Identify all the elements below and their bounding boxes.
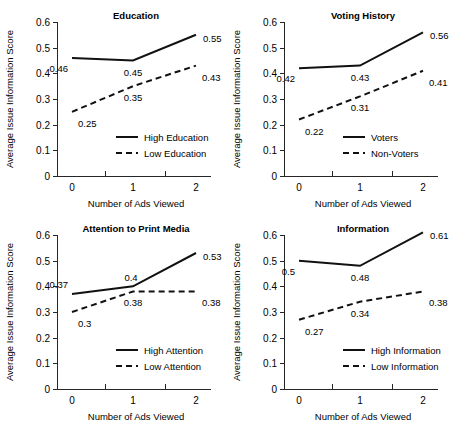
y-axis-tick-label: 0.1: [36, 145, 50, 156]
panel-title: Education: [113, 10, 159, 21]
x-axis-tick-label: 2: [193, 182, 199, 193]
series-line-1: [299, 32, 423, 68]
chart-panel-3: Attention to Print Media00.10.20.30.40.5…: [0, 213, 226, 426]
x-axis-tick-label: 1: [357, 182, 363, 193]
legend-label-1: High Education: [144, 132, 208, 143]
data-point-label: 0.5: [282, 266, 295, 277]
y-axis-tick-label: 0.1: [36, 358, 50, 369]
x-axis-tick-label: 2: [420, 395, 426, 406]
data-point-label: 0.27: [305, 326, 324, 337]
y-axis-tick-label: 0.4: [36, 68, 50, 79]
legend-label-2: Low Attention: [144, 361, 201, 372]
series-line-1: [299, 232, 423, 265]
x-axis-label: Number of Ads Viewed: [315, 411, 411, 422]
y-axis-tick-label: 0: [271, 171, 277, 182]
x-axis-tick-label: 0: [69, 182, 75, 193]
data-point-label: 0.31: [351, 102, 370, 113]
y-axis-tick-label: 0.6: [36, 17, 50, 28]
y-axis-tick-label: 0.2: [263, 333, 277, 344]
y-axis-label: Average Issue Information Score: [231, 243, 242, 381]
data-point-label: 0.25: [78, 118, 97, 129]
legend-label-1: Voters: [371, 132, 398, 143]
chart-panel-2: Voting History00.10.20.30.40.50.6012Numb…: [227, 0, 453, 213]
data-point-label: 0.42: [277, 73, 296, 84]
y-axis-tick-label: 0.1: [263, 145, 277, 156]
y-axis-tick-label: 0.6: [263, 230, 277, 241]
panel-plot-area: Attention to Print Media00.10.20.30.40.5…: [0, 213, 226, 426]
data-point-label: 0.53: [203, 251, 222, 262]
x-axis-tick-label: 0: [296, 182, 302, 193]
y-axis-label: Average Issue Information Score: [4, 243, 15, 381]
y-axis-tick-label: 0.3: [36, 307, 50, 318]
y-axis-tick-label: 0.3: [263, 307, 277, 318]
data-point-label: 0.37: [50, 279, 69, 290]
y-axis-tick-label: 0: [44, 384, 50, 395]
y-axis-tick-label: 0.2: [36, 120, 50, 131]
data-point-label: 0.43: [351, 72, 370, 83]
data-point-label: 0.34: [351, 308, 370, 319]
data-point-label: 0.38: [429, 297, 448, 308]
x-axis-tick-label: 2: [420, 182, 426, 193]
y-axis-label: Average Issue Information Score: [231, 30, 242, 168]
data-point-label: 0.41: [429, 77, 448, 88]
legend-label-1: High Information: [371, 345, 441, 356]
data-point-label: 0.61: [430, 230, 449, 241]
legend-label-2: Low Education: [144, 148, 206, 159]
data-point-label: 0.3: [78, 318, 91, 329]
series-line-1: [72, 35, 196, 61]
panel-plot-area: Information00.10.20.30.40.50.6012Number …: [227, 213, 453, 426]
data-point-label: 0.45: [124, 67, 143, 78]
legend-label-2: Non-Voters: [371, 148, 419, 159]
chart-panel-1: Education00.10.20.30.40.50.6012Number of…: [0, 0, 226, 213]
y-axis-tick-label: 0.6: [263, 17, 277, 28]
y-axis-tick-label: 0.2: [263, 120, 277, 131]
y-axis-tick-label: 0: [44, 171, 50, 182]
panel-title: Voting History: [331, 10, 396, 21]
data-point-label: 0.43: [202, 72, 221, 83]
panel-title: Attention to Print Media: [82, 223, 190, 234]
y-axis-tick-label: 0.4: [36, 281, 50, 292]
data-point-label: 0.38: [124, 297, 143, 308]
x-axis-tick-label: 1: [130, 182, 136, 193]
panel-plot-area: Education00.10.20.30.40.50.6012Number of…: [0, 0, 226, 213]
data-point-label: 0.38: [202, 297, 221, 308]
y-axis-tick-label: 0.5: [263, 256, 277, 267]
panel-title: Information: [337, 223, 389, 234]
y-axis-tick-label: 0.4: [263, 281, 277, 292]
y-axis-tick-label: 0.5: [36, 43, 50, 54]
chart-figure-grid: Education00.10.20.30.40.50.6012Number of…: [0, 0, 453, 426]
y-axis-tick-label: 0: [271, 384, 277, 395]
x-axis-tick-label: 1: [130, 395, 136, 406]
y-axis-tick-label: 0.4: [263, 68, 277, 79]
x-axis-tick-label: 0: [69, 395, 75, 406]
y-axis-tick-label: 0.2: [36, 333, 50, 344]
data-point-label: 0.48: [351, 272, 370, 283]
x-axis-tick-label: 0: [296, 395, 302, 406]
x-axis-tick-label: 1: [357, 395, 363, 406]
x-axis-tick-label: 2: [193, 395, 199, 406]
data-point-label: 0.35: [124, 92, 143, 103]
y-axis-tick-label: 0.1: [263, 358, 277, 369]
data-point-label: 0.56: [430, 30, 449, 41]
legend-label-2: Low Information: [371, 361, 439, 372]
x-axis-label: Number of Ads Viewed: [88, 411, 184, 422]
y-axis-tick-label: 0.5: [263, 43, 277, 54]
legend-label-1: High Attention: [144, 345, 203, 356]
y-axis-tick-label: 0.3: [36, 94, 50, 105]
data-point-label: 0.55: [203, 33, 222, 44]
y-axis-label: Average Issue Information Score: [4, 30, 15, 168]
panel-plot-area: Voting History00.10.20.30.40.50.6012Numb…: [227, 0, 453, 213]
chart-panel-4: Information00.10.20.30.40.50.6012Number …: [227, 213, 453, 426]
x-axis-label: Number of Ads Viewed: [315, 198, 411, 209]
y-axis-tick-label: 0.3: [263, 94, 277, 105]
data-point-label: 0.4: [124, 272, 137, 283]
y-axis-tick-label: 0.5: [36, 256, 50, 267]
x-axis-label: Number of Ads Viewed: [88, 198, 184, 209]
y-axis-tick-label: 0.6: [36, 230, 50, 241]
data-point-label: 0.46: [50, 63, 69, 74]
data-point-label: 0.22: [305, 126, 324, 137]
